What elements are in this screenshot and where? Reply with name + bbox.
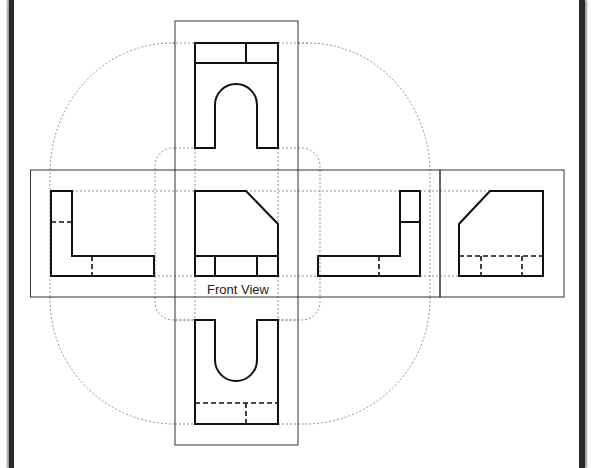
view-frames bbox=[31, 21, 565, 445]
object-lines bbox=[51, 43, 543, 424]
hidden-lines bbox=[51, 222, 543, 424]
front-view bbox=[195, 191, 278, 276]
left-side-view bbox=[51, 191, 154, 276]
projection-lines bbox=[50, 43, 490, 424]
right-side-view bbox=[318, 191, 420, 276]
top-view bbox=[195, 43, 278, 148]
projection-diagram bbox=[0, 0, 591, 468]
front-view-label: Front View bbox=[207, 282, 269, 297]
bottom-view bbox=[195, 320, 278, 424]
horizontal-frame bbox=[31, 170, 441, 297]
rear-view bbox=[459, 191, 543, 276]
